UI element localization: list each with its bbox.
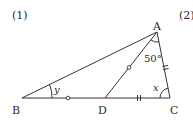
problem-label-1: (1)	[12, 9, 28, 22]
angle-arc-ABC	[50, 85, 53, 98]
angle-label-y: y	[53, 84, 60, 95]
vertex-label-B: B	[12, 104, 20, 117]
angle-arc-DAC	[151, 40, 159, 42]
segment-AD	[105, 32, 157, 98]
vertex-label-A: A	[152, 20, 162, 33]
side-AB	[22, 32, 157, 98]
vertex-label-C: C	[170, 104, 178, 117]
circle-mark-BD	[66, 96, 70, 100]
angle-label-x: x	[153, 82, 159, 93]
circle-mark-AD	[127, 66, 131, 70]
problem-label-2: (2)	[179, 9, 193, 22]
angle-label-DAC: 50°	[144, 53, 162, 64]
angle-arc-ACB	[160, 88, 168, 98]
triangle-diagram: (1) (2) A B C D 50° x y	[0, 0, 193, 120]
vertex-label-D: D	[98, 104, 107, 117]
